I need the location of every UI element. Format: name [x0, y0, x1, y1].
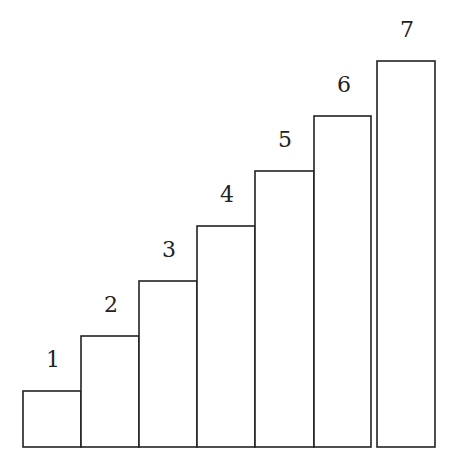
bar-2: [81, 336, 139, 447]
bar-label-2: 2: [91, 292, 131, 317]
bar-label-3: 3: [149, 237, 189, 262]
bar-6: [314, 116, 371, 447]
bar-label-5: 5: [265, 127, 305, 152]
bar-label-6: 6: [324, 72, 364, 97]
bar-5: [255, 171, 314, 447]
bar-7: [377, 61, 435, 447]
staircase-bar-diagram: [0, 0, 449, 470]
bar-4: [197, 226, 255, 447]
bar-label-7: 7: [387, 17, 427, 42]
bar-3: [139, 281, 197, 447]
bar-label-4: 4: [207, 182, 247, 207]
bar-1: [23, 391, 81, 447]
bar-label-1: 1: [33, 347, 73, 372]
